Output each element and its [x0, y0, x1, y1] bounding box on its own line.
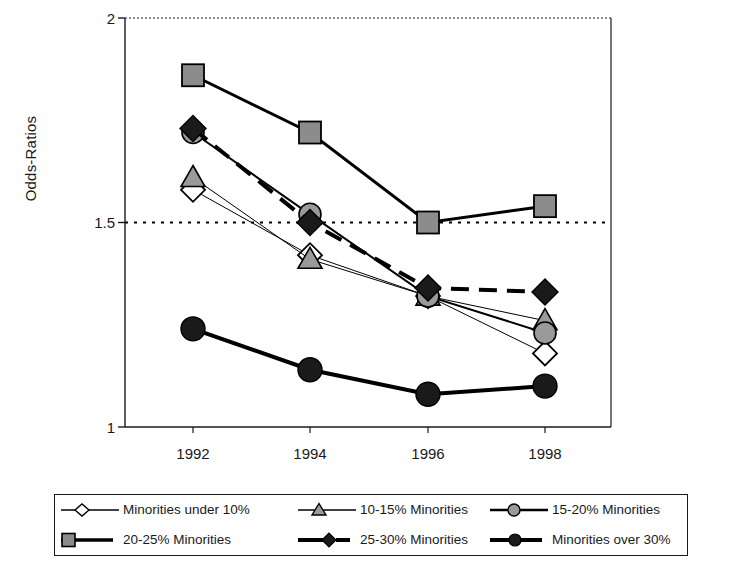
legend-label: 20-25% Minorities [123, 533, 231, 547]
chart-root: Odds-Ratios 2 1.5 1 1992 1994 1996 1998 … [0, 0, 743, 575]
legend-label: 25-30% Minorities [360, 533, 468, 547]
legend: Minorities under 10% 10-15% Minorities [54, 494, 688, 556]
legend-item-minorities-under-10[interactable]: Minorities under 10% [61, 501, 298, 519]
plot-area [0, 0, 743, 470]
triangle-key-icon [298, 501, 356, 519]
series-1 [181, 166, 557, 330]
legend-item-20-25-minorities[interactable]: 20-25% Minorities [61, 531, 298, 549]
circle-gray-key-icon [490, 501, 548, 519]
series-4 [180, 115, 558, 305]
series-0 [181, 178, 557, 366]
legend-item-10-15-minorities[interactable]: 10-15% Minorities [298, 501, 490, 519]
legend-item-minorities-over-30[interactable]: Minorities over 30% [490, 531, 695, 549]
series-3 [182, 64, 556, 233]
circle-black-key-icon [490, 531, 548, 549]
square-gray-key-icon [61, 531, 119, 549]
diamond-filled-dashed-key-icon [298, 531, 356, 549]
legend-label: Minorities under 10% [123, 503, 250, 517]
series-2 [182, 122, 556, 344]
legend-item-25-30-minorities[interactable]: 25-30% Minorities [298, 531, 490, 549]
legend-label: 15-20% Minorities [552, 503, 660, 517]
legend-label: 10-15% Minorities [360, 503, 468, 517]
series-5 [181, 317, 557, 406]
legend-label: Minorities over 30% [552, 533, 671, 547]
diamond-open-key-icon [61, 501, 119, 519]
legend-item-15-20-minorities[interactable]: 15-20% Minorities [490, 501, 695, 519]
